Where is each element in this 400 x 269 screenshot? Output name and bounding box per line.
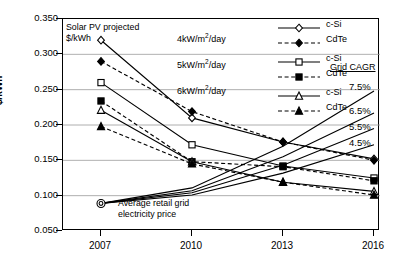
irradiance-label-5: 5kW/m2/day: [177, 58, 226, 70]
data-point-marker: [97, 122, 104, 129]
plot-title-line1: Solar PV projected: [66, 22, 139, 33]
cagr-label: 6.5%: [349, 105, 371, 116]
y-tick-label: 0.150: [14, 154, 58, 164]
data-point-marker: [98, 58, 105, 66]
series-8: [101, 129, 374, 204]
data-point-marker: [296, 74, 302, 80]
x-tick-label: 2016: [343, 240, 400, 251]
irradiance-label-6: 6kW/m2/day: [177, 84, 226, 96]
grid-price-line2: electricity price: [118, 209, 189, 220]
data-point-marker: [296, 59, 302, 65]
data-point-marker: [97, 106, 104, 113]
data-point-marker: [296, 24, 303, 32]
series-4: [97, 106, 377, 194]
legend-label: c-Si: [326, 19, 342, 29]
data-point-marker: [98, 80, 104, 86]
x-tick-label: 2010: [161, 240, 221, 251]
y-tick-mark: [56, 230, 62, 231]
legend-label: CdTe: [326, 34, 347, 44]
plot-title-annotation: Solar PV projected $/kWh: [66, 22, 139, 44]
grid-price-line1: Average retail grid: [118, 198, 189, 209]
cagr-label: 7.5%: [349, 81, 371, 92]
legend-sample-open-triangle: [277, 88, 321, 100]
grid-origin-marker: [97, 199, 105, 207]
y-axis-label: $/kWh: [0, 76, 4, 105]
legend-label: CdTe: [326, 102, 347, 112]
plot-title-line2: $/kWh: [66, 33, 139, 44]
irradiance-label-4: 4kW/m2/day: [177, 32, 226, 44]
y-tick-label: 0.050: [14, 225, 58, 235]
legend-label: c-Si: [326, 53, 342, 63]
legend-sample-filled-square: [277, 69, 321, 81]
chart-svg: [63, 19, 380, 231]
chart-container: $/kWh 0.3500.3000.2500.2000.1500.1000.05…: [0, 0, 400, 269]
x-tick-label: 2013: [252, 240, 312, 251]
y-tick-label: 0.100: [14, 190, 58, 200]
y-tick-label: 0.200: [14, 119, 58, 129]
series-line: [101, 101, 374, 181]
legend-sample-open-diamond: [277, 20, 321, 32]
cagr-label: 4.5%: [349, 137, 371, 148]
legend-sample-filled-diamond: [277, 35, 321, 47]
data-point-marker: [371, 178, 377, 184]
data-point-marker: [189, 108, 196, 116]
y-tick-label: 0.300: [14, 48, 58, 58]
x-tick-label: 2007: [70, 240, 130, 251]
legend-sample-open-square: [277, 54, 321, 66]
y-tick-label: 0.250: [14, 84, 58, 94]
data-point-marker: [98, 98, 104, 104]
legend-label: c-Si: [326, 87, 342, 97]
plot-area: [62, 18, 379, 230]
data-point-marker: [296, 39, 303, 47]
legend-label: CdTe: [326, 68, 347, 78]
cagr-label: 5.5%: [349, 121, 371, 132]
grid-price-annotation: Average retail grid electricity price: [118, 198, 189, 220]
series-line: [101, 129, 374, 204]
data-point-marker: [189, 142, 195, 148]
y-tick-label: 0.350: [14, 13, 58, 23]
legend-sample-filled-triangle: [277, 103, 321, 115]
